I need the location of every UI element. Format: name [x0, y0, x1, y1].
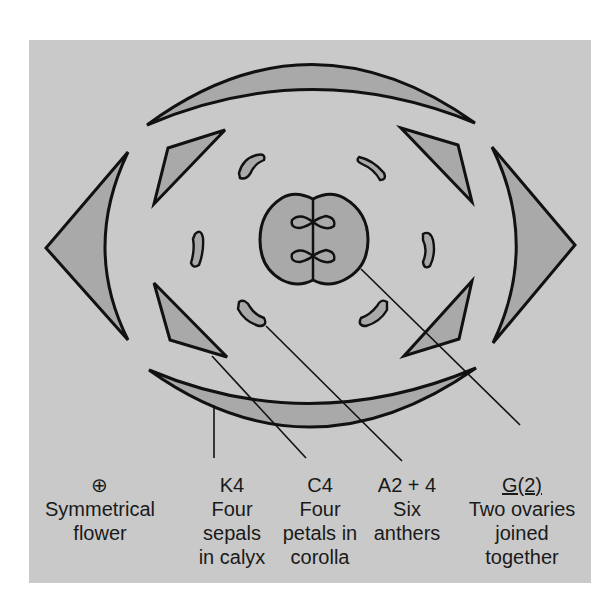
sepal-top: [147, 64, 475, 125]
leader-petals: [266, 326, 402, 461]
androecium-formula: A2 + 4: [374, 473, 441, 497]
ovary: [260, 194, 368, 284]
sepal-left: [46, 152, 128, 340]
anther-top-left: [239, 155, 264, 179]
corolla-formula: C4: [283, 473, 358, 497]
label-symmetry: ⊕ Symmetrical flower: [45, 473, 155, 545]
label-androecium: A2 + 4 Six anthers: [374, 473, 441, 545]
leader-lines: [212, 269, 520, 461]
calyx-formula: K4: [199, 473, 266, 497]
anther-bottom-left: [238, 301, 265, 326]
gynoecium-formula: G(2): [469, 473, 576, 497]
labels-row: ⊕ Symmetrical flower K4 Four sepals in c…: [29, 473, 591, 583]
label-calyx: K4 Four sepals in calyx: [199, 473, 266, 569]
anther-left: [191, 232, 203, 267]
label-corolla: C4 Four petals in corolla: [283, 473, 358, 569]
sepal-right: [492, 147, 575, 343]
anther-bottom-right: [360, 301, 387, 326]
label-gynoecium: G(2) Two ovaries joined together: [469, 473, 576, 569]
symmetry-symbol: ⊕: [45, 473, 155, 497]
sepal-bottom: [149, 368, 476, 427]
petal-top-right: [401, 128, 472, 202]
anther-right: [423, 233, 434, 267]
petal-bottom-left: [154, 283, 227, 357]
anther-top-right: [358, 157, 385, 180]
petal-top-left: [154, 130, 225, 204]
